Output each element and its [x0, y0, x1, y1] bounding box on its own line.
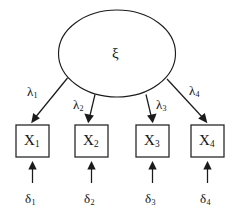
latent-variable-symbol: ξ	[112, 45, 119, 61]
loading-arrow-3	[146, 95, 157, 124]
error-label-3: δ3	[145, 192, 155, 205]
error-subscript-2: 2	[90, 198, 94, 207]
indicator-subscript-4: 4	[210, 139, 215, 149]
error-subscript-4: 4	[206, 198, 210, 207]
error-label-1: δ1	[25, 192, 35, 205]
indicator-symbol-2: X	[83, 132, 94, 148]
loading-subscript-1: 1	[33, 91, 37, 100]
loading-subscript-2: 2	[79, 104, 83, 113]
latent-variable-label: ξ	[112, 46, 119, 61]
error-subscript-3: 3	[151, 198, 155, 207]
loading-label-4: λ4	[189, 84, 200, 97]
error-label-4: δ4	[200, 192, 210, 205]
error-arrow-3	[148, 161, 156, 183]
diagram-vector-layer	[0, 0, 236, 218]
indicator-symbol-4: X	[199, 132, 210, 148]
error-label-2: δ2	[84, 192, 94, 205]
indicator-label-1: X1	[24, 133, 40, 148]
indicator-subscript-2: 2	[94, 139, 99, 149]
indicator-label-4: X4	[199, 133, 215, 148]
indicator-label-2: X2	[83, 133, 99, 148]
loading-subscript-4: 4	[195, 90, 199, 99]
indicator-label-3: X3	[144, 133, 160, 148]
loading-label-3: λ3	[156, 98, 167, 111]
indicator-symbol-1: X	[24, 132, 35, 148]
error-subscript-1: 1	[31, 198, 35, 207]
loading-label-2: λ2	[73, 98, 84, 111]
error-arrow-4	[203, 161, 211, 183]
loading-arrow-4	[167, 79, 207, 123]
error-arrow-2	[87, 161, 95, 183]
error-arrow-1	[28, 161, 36, 183]
indicator-subscript-1: 1	[35, 139, 40, 149]
loading-label-1: λ1	[27, 85, 38, 98]
indicator-subscript-3: 3	[155, 139, 160, 149]
path-diagram-canvas: ξ λ1 λ2 λ3 λ4 X1 X2 X3 X4 δ1 δ2 δ3 δ4	[0, 0, 236, 218]
loading-subscript-3: 3	[162, 104, 166, 113]
indicator-symbol-3: X	[144, 132, 155, 148]
loading-arrow-2	[84, 95, 95, 124]
